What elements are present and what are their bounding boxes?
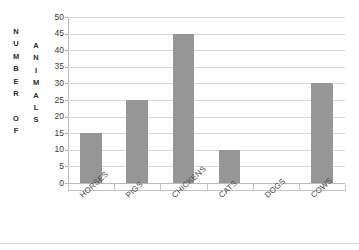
axis-title-gap: [9, 100, 23, 112]
bar: [126, 100, 148, 183]
x-axis-separator: [114, 184, 115, 191]
y-axis-tick-label: 15: [42, 129, 64, 138]
gridline: [68, 34, 345, 35]
gridline: [68, 133, 345, 134]
y-axis-tick: [65, 83, 68, 84]
x-axis-separator: [253, 184, 254, 191]
gridline: [68, 117, 345, 118]
axis-title-letter: M: [9, 51, 23, 63]
bar: [173, 34, 195, 183]
axis-title-letter: E: [9, 76, 23, 88]
x-axis-separator: [68, 184, 69, 191]
axis-title-letter: O: [9, 113, 23, 125]
plot-area: [68, 17, 345, 183]
y-axis-tick: [65, 50, 68, 51]
gridline: [68, 50, 345, 51]
axis-title-letter: N: [9, 26, 23, 38]
y-axis-tick-label: 45: [42, 29, 64, 38]
y-axis-tick: [65, 150, 68, 151]
y-axis-tick-label: 50: [42, 13, 64, 22]
y-axis-tick-label: 35: [42, 62, 64, 71]
gridline: [68, 166, 345, 167]
gridline: [68, 150, 345, 151]
x-axis-separator: [160, 184, 161, 191]
y-axis-tick: [65, 117, 68, 118]
y-axis-tick-labels: 50454035302520151050: [40, 17, 64, 183]
y-axis-tick-label: 20: [42, 112, 64, 121]
gridline: [68, 100, 345, 101]
chart-title: [6, 0, 206, 6]
y-axis-tick-label: 5: [42, 162, 64, 171]
gridline: [68, 67, 345, 68]
bar: [311, 83, 333, 183]
y-axis-title-number-of: NUMBEROF: [9, 26, 23, 138]
y-axis-tick-label: 25: [42, 96, 64, 105]
y-axis-tick-label: 30: [42, 79, 64, 88]
bar-chart-figure: NUMBEROF ANIMALS 50454035302520151050 HO…: [0, 0, 359, 250]
y-axis-tick: [65, 166, 68, 167]
axis-title-letter: B: [9, 63, 23, 75]
y-axis-tick-label: 10: [42, 145, 64, 154]
bar: [219, 150, 241, 183]
y-axis-tick: [65, 34, 68, 35]
x-axis-separator: [299, 184, 300, 191]
x-axis-separator: [345, 184, 346, 191]
page-divider-rule: [0, 243, 359, 244]
gridline: [68, 83, 345, 84]
axis-title-letter: F: [9, 125, 23, 137]
x-axis-separator: [207, 184, 208, 191]
y-axis-tick: [65, 100, 68, 101]
axis-title-letter: R: [9, 88, 23, 100]
y-axis-tick: [65, 17, 68, 18]
y-axis-tick: [65, 133, 68, 134]
y-axis-tick-label: 40: [42, 46, 64, 55]
gridline: [68, 17, 345, 18]
y-axis-tick: [65, 67, 68, 68]
axis-title-letter: U: [9, 38, 23, 50]
y-axis-tick-label: 0: [42, 179, 64, 188]
